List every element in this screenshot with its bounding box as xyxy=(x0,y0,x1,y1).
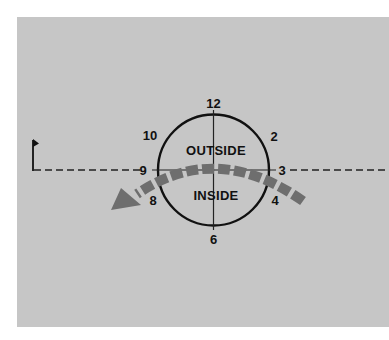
label-3: 3 xyxy=(278,163,285,178)
label-9: 9 xyxy=(139,163,146,178)
label-4: 4 xyxy=(271,193,279,208)
label-2: 2 xyxy=(270,129,277,144)
clock-diagram: 12 2 3 4 6 8 9 10 OUTSIDE INSIDE xyxy=(0,0,389,340)
label-10: 10 xyxy=(143,128,157,143)
flag-icon xyxy=(33,139,39,171)
label-12: 12 xyxy=(206,96,220,111)
region-outside-label: OUTSIDE xyxy=(186,143,246,158)
region-inside-label: INSIDE xyxy=(193,188,238,203)
label-6: 6 xyxy=(210,232,217,247)
label-8: 8 xyxy=(149,193,156,208)
